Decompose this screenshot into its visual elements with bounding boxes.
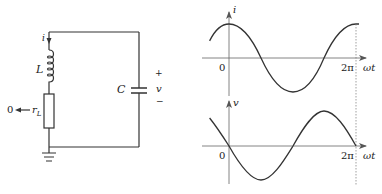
figure-svg — [0, 0, 382, 194]
circuit — [15, 32, 147, 161]
time-axis-label: ωt — [363, 63, 375, 73]
voltage-axis-label: v — [233, 98, 239, 108]
voltage-waveform — [210, 111, 356, 180]
origin-label: 0 — [219, 63, 225, 73]
plot-voltage — [202, 101, 366, 184]
time-axis-label: ωt — [363, 151, 375, 161]
inductor-icon — [48, 50, 54, 94]
period-label: 2π — [341, 63, 354, 73]
current-axis-label: i — [233, 5, 236, 15]
lc-circuit-figure: i L C + v − 0 rL i 0 2π ωt v 0 2π ωt — [0, 0, 382, 194]
voltage-plus-label: + — [155, 69, 163, 78]
capacitor-icon — [131, 88, 147, 93]
current-label: i — [42, 34, 45, 43]
inductor-label: L — [36, 64, 43, 75]
resistor-value-label: 0 — [7, 105, 13, 115]
capacitor-label: C — [117, 84, 125, 95]
resistor-label: rL — [32, 105, 41, 115]
resistor-icon — [44, 94, 54, 128]
ground-icon — [42, 147, 56, 161]
voltage-label: v — [156, 84, 162, 94]
voltage-minus-label: − — [156, 97, 164, 106]
origin-label: 0 — [219, 151, 225, 161]
period-label: 2π — [341, 151, 354, 161]
current-arrow-icon — [47, 38, 52, 44]
